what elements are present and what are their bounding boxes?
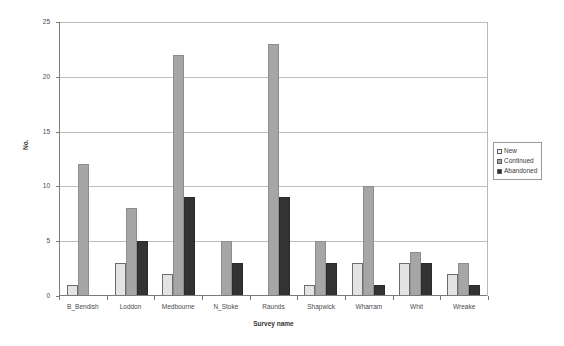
legend-swatch-continued-icon [497, 159, 502, 164]
bar[interactable] [326, 263, 337, 296]
x-tick-label: Wreake [440, 303, 488, 311]
legend-swatch-abandoned-icon [497, 169, 502, 174]
bar[interactable] [421, 263, 432, 296]
y-tick-label: 5 [46, 238, 50, 245]
bar-group [202, 22, 249, 296]
bar[interactable] [184, 197, 195, 296]
bar-group [60, 22, 107, 296]
bar[interactable] [410, 252, 421, 296]
x-tick-label: Wharram [345, 303, 393, 311]
x-tick-mark [393, 296, 394, 300]
legend-item-new[interactable]: New [497, 146, 537, 156]
legend-label-new: New [504, 148, 517, 155]
bar[interactable] [458, 263, 469, 296]
bar[interactable] [126, 208, 137, 296]
bar[interactable] [78, 164, 89, 296]
x-tick-mark [440, 296, 441, 300]
x-tick-mark [154, 296, 155, 300]
plot-area [59, 22, 488, 296]
bar-group [392, 22, 439, 296]
x-tick-mark [297, 296, 298, 300]
bar-group [297, 22, 344, 296]
bar[interactable] [363, 186, 374, 296]
bar[interactable] [232, 263, 243, 296]
bar[interactable] [352, 263, 363, 296]
x-tick-label: Whit [393, 303, 441, 311]
x-axis-tick-marks [59, 296, 488, 300]
bar-group [440, 22, 487, 296]
y-tick-label: 20 [43, 74, 50, 81]
y-tick-label: 10 [43, 183, 50, 190]
x-tick-label: Raunds [250, 303, 298, 311]
bar[interactable] [447, 274, 458, 296]
x-tick-label: B_Bendish [59, 303, 107, 311]
bar[interactable] [315, 241, 326, 296]
bar-chart: No. 0510152025 B_BendishLoddonMedbourneN… [0, 0, 564, 346]
bar[interactable] [137, 241, 148, 296]
bar[interactable] [221, 241, 232, 296]
bar[interactable] [268, 44, 279, 296]
bar[interactable] [399, 263, 410, 296]
y-axis-tick-labels: 0510152025 [0, 22, 56, 296]
legend-label-abandoned: Abandoned [504, 168, 537, 175]
legend-swatch-new-icon [497, 149, 502, 154]
legend-item-abandoned[interactable]: Abandoned [497, 166, 537, 176]
y-tick-label: 0 [46, 293, 50, 300]
y-tick-label: 15 [43, 128, 50, 135]
x-tick-label: N_Stoke [202, 303, 250, 311]
x-axis-tick-labels: B_BendishLoddonMedbourneN_StokeRaundsSha… [59, 303, 488, 311]
bar[interactable] [279, 197, 290, 296]
x-tick-label: Shapwick [297, 303, 345, 311]
legend-label-continued: Continued [504, 158, 534, 165]
legend-item-continued[interactable]: Continued [497, 156, 537, 166]
x-tick-mark [345, 296, 346, 300]
bar-group [155, 22, 202, 296]
bar[interactable] [162, 274, 173, 296]
x-tick-label: Loddon [107, 303, 155, 311]
x-tick-label: Medbourne [154, 303, 202, 311]
x-axis-title: Survey name [59, 320, 488, 327]
x-tick-mark [488, 296, 489, 300]
y-tick-label: 25 [43, 19, 50, 26]
x-tick-mark [250, 296, 251, 300]
bar-group [250, 22, 297, 296]
bar-groups [60, 22, 487, 296]
bar[interactable] [115, 263, 126, 296]
x-tick-mark [107, 296, 108, 300]
bar[interactable] [173, 55, 184, 296]
x-tick-mark [59, 296, 60, 300]
bar-group [107, 22, 154, 296]
chart-legend: New Continued Abandoned [493, 142, 542, 180]
x-tick-mark [202, 296, 203, 300]
bar-group [345, 22, 392, 296]
